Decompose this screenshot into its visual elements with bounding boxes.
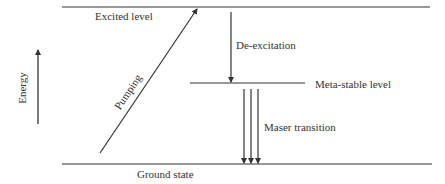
deexcitation-label: De-excitation [236, 39, 296, 51]
excited-level: Excited level [62, 7, 430, 22]
ground-state-label: Ground state [137, 168, 194, 180]
ground-state: Ground state [62, 164, 432, 180]
pumping-label: Pumping [112, 72, 144, 112]
energy-axis: Energy [16, 50, 38, 124]
pumping-transition: Pumping [100, 9, 197, 153]
energy-level-diagram: Energy Excited level Pumping De-excitati… [0, 0, 445, 184]
maser-transition-label: Maser transition [264, 121, 336, 133]
metastable-level: Meta-stable level [190, 78, 391, 90]
pumping-arrow-icon [100, 9, 197, 153]
maser-transition: Maser transition [244, 89, 336, 163]
metastable-level-label: Meta-stable level [315, 78, 391, 90]
energy-axis-label: Energy [16, 72, 28, 104]
excited-level-label: Excited level [95, 10, 153, 22]
deexcitation-transition: De-excitation [231, 12, 296, 82]
